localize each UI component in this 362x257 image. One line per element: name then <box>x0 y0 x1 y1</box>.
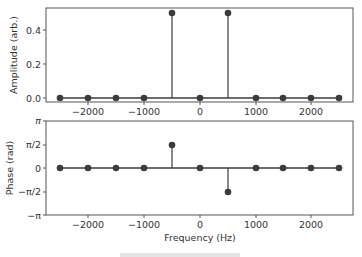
phase-plot: π π/2 0 −π/2 −π −2000 −1000 0 1000 2000 <box>4 115 353 243</box>
figure: 0.0 0.2 0.4 −2000 −1000 0 1000 2000 <box>0 0 362 257</box>
ytick-minus-pi-half: −π/2 <box>18 186 41 197</box>
xtick-0: 0 <box>197 219 203 230</box>
ytick-0.2: 0.2 <box>26 59 41 70</box>
xtick-minus-2000: −2000 <box>72 219 104 230</box>
amplitude-ylabel: Amplitude (arb.) <box>8 16 19 94</box>
xtick-minus-2000: −2000 <box>72 106 104 117</box>
xtick-1000: 1000 <box>244 219 268 230</box>
frequency-xlabel: Frequency (Hz) <box>164 232 236 243</box>
xtick-minus-1000: −1000 <box>128 106 160 117</box>
phase-yticks: π π/2 0 −π/2 −π <box>18 115 46 221</box>
caption-fragment <box>120 253 240 257</box>
xtick-1000: 1000 <box>244 106 268 117</box>
amplitude-plot: 0.0 0.2 0.4 −2000 −1000 0 1000 2000 <box>8 8 353 117</box>
xtick-minus-1000: −1000 <box>128 219 160 230</box>
phase-ylabel: Phase (rad) <box>4 141 15 196</box>
amplitude-axes-frame <box>46 8 353 102</box>
xtick-2000: 2000 <box>299 106 323 117</box>
ytick-0.4: 0.4 <box>26 25 41 36</box>
amplitude-yticks: 0.0 0.2 0.4 <box>26 25 46 104</box>
ytick-minus-pi: −π <box>27 210 41 221</box>
amplitude-markers <box>57 10 343 102</box>
xtick-2000: 2000 <box>299 219 323 230</box>
xtick-0: 0 <box>197 106 203 117</box>
ytick-pi-half: π/2 <box>26 139 41 150</box>
ytick-pi: π <box>35 115 41 126</box>
ytick-zero: 0 <box>35 163 41 174</box>
ytick-0.0: 0.0 <box>26 93 41 104</box>
amplitude-xticks: −2000 −1000 0 1000 2000 <box>72 102 323 117</box>
phase-xticks: −2000 −1000 0 1000 2000 <box>72 215 323 230</box>
